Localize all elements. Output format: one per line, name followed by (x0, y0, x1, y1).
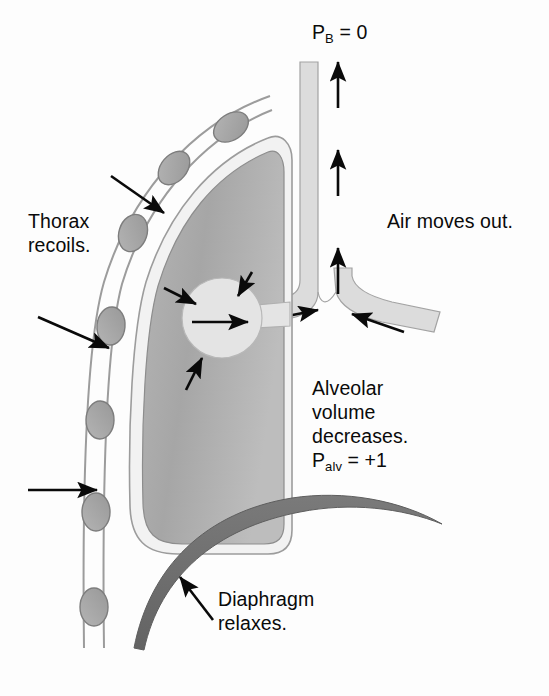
diaphragm-label-line1: Diaphragm (218, 588, 314, 610)
rib-2 (152, 145, 196, 191)
barometric-pressure-label: PB = 0 (312, 20, 367, 47)
carina-notch (318, 292, 336, 302)
thorax-recoils-label: Thoraxrecoils. (28, 209, 91, 257)
rib-6 (82, 493, 110, 531)
diaphragm-callout-arrow (180, 577, 213, 620)
diaphragm-label-line2: relaxes. (218, 612, 287, 634)
thorax-label-line2: recoils. (28, 234, 91, 256)
pb-subscript: B (325, 31, 334, 46)
alveolar-label-line2: volume (312, 401, 375, 423)
air-moves-out-label: Air moves out. (387, 209, 513, 233)
rib-4 (95, 306, 126, 346)
rib-5 (86, 401, 115, 439)
rib-3 (114, 211, 152, 256)
alveolar-label-line3: decreases. (312, 425, 408, 447)
alveolar-volume-label: Alveolarvolumedecreases. (312, 376, 408, 448)
thorax-label-line1: Thorax (28, 210, 89, 232)
palv-symbol: P (312, 449, 325, 471)
pb-symbol: P (312, 21, 325, 43)
bronchus-right (334, 268, 440, 332)
palv-subscript: alv (325, 459, 342, 474)
palv-equation: = +1 (342, 449, 387, 471)
alveolus-sac (182, 278, 262, 358)
diaphragm-relaxes-label: Diaphragmrelaxes. (218, 587, 314, 635)
rib-7 (80, 588, 108, 626)
pb-equation: = 0 (334, 21, 367, 43)
alveolar-pressure-label: Palv = +1 (312, 448, 387, 475)
alveolar-label-line1: Alveolar (312, 377, 383, 399)
respiration-expiration-diagram: PB = 0 Thoraxrecoils. Air moves out. Alv… (0, 0, 549, 696)
